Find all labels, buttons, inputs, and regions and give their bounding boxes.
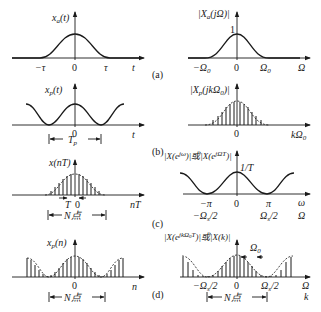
y-axis-label: |Xa(jΩ)| [198, 8, 230, 21]
y-axis-label: |X(ejkΩ0T)|或|X(k)| [164, 231, 230, 242]
x-axis-label: kΩ0 [291, 129, 307, 142]
tick-neg-half-fs: −Ωs/2 [193, 280, 218, 293]
fourier-transform-diagram: xa(t) −τ 0 τ t (a) |Xa(jΩ)| 1 −Ω0 0 Ω0 Ω… [0, 0, 321, 312]
tick-half-fs: Ωs/2 [261, 280, 279, 293]
y-axis-label: x(nT) [48, 157, 71, 169]
y-axis-label: xa(t) [51, 12, 70, 25]
tick-neg-tau: −τ [35, 62, 46, 73]
envelope-curve [182, 255, 293, 277]
tick-zero: 0 [234, 62, 239, 73]
x-axis-label-Omega: Ω [302, 280, 309, 291]
tick-zero: 0 [72, 62, 77, 73]
caption-b: (b) [152, 146, 164, 158]
caption-c: (c) [152, 218, 163, 230]
span-label: N点 [63, 210, 82, 221]
x-axis-label-omega: ω [298, 197, 305, 208]
gaussian-pulse-curve [12, 34, 140, 58]
tick-pi: π [266, 198, 272, 209]
tick-zero: 0 [234, 198, 239, 209]
panel-a-left-time-signal: xa(t) −τ 0 τ t [12, 12, 144, 73]
x-axis-label-k: k [304, 291, 309, 302]
tick-neg-half-fs: −Ωs/2 [193, 210, 218, 223]
span-label: N点 [63, 292, 82, 303]
tick-neg-omega0: −Ω0 [193, 62, 211, 75]
x-axis-label: n [132, 281, 137, 292]
tick-half-fs: Ωs/2 [260, 210, 278, 223]
y-axis-label: |X(ejω)|或|X(ejΩT)| [164, 150, 232, 161]
x-axis-label: t [132, 129, 135, 140]
x-axis-label: nT [130, 199, 142, 210]
tick-zero: 0 [234, 280, 239, 291]
panel-b-left-periodic-signal: xp(t) 0 t Tp [12, 84, 144, 147]
tick-zero: 0 [72, 280, 77, 291]
panel-d-right-dft-spectrum: |X(ejkΩ0T)|或|X(k)| Ω0 −Ωs/2 0 Ωs/2 Ω k N… [164, 231, 310, 303]
tick-zero: 0 [234, 128, 239, 139]
caption-d: (d) [152, 289, 164, 301]
panel-c-left-sampled-signal: x(nT) T 0 nT N点 [12, 157, 144, 221]
peak-label: 1 [230, 24, 235, 35]
tick-zero: 0 [75, 199, 80, 210]
span-label: N点 [223, 292, 242, 303]
tick-omega0: Ω0 [260, 62, 271, 75]
x-axis-label: t [132, 62, 135, 73]
caption-a: (a) [152, 69, 163, 81]
tick-neg-pi: −π [200, 198, 213, 209]
spectrum-curve [188, 34, 300, 58]
x-axis-label-Omega: Ω [298, 210, 305, 221]
y-axis-label: |Xp(jkΩ0)| [190, 84, 230, 97]
peak-label: 1/T [240, 162, 255, 173]
sample-period-label: T [65, 199, 72, 210]
panel-c-right-dtft-spectrum: |X(ejω)|或|X(ejΩT)| 1/T −π 0 π ω −Ωs/2 Ωs… [164, 150, 310, 223]
bin-spacing-label: Ω0 [250, 242, 261, 255]
panel-b-right-line-spectrum: |Xp(jkΩ0)| 0 kΩ0 [188, 84, 310, 142]
y-axis-label: xp(n) [46, 237, 67, 250]
x-axis-label: Ω [298, 62, 305, 73]
panel-a-right-spectrum: |Xa(jΩ)| 1 −Ω0 0 Ω0 Ω [188, 8, 310, 75]
tick-tau: τ [104, 62, 108, 73]
panel-d-left-periodic-sequence: xp(n) 0 n N点 [12, 237, 144, 303]
y-axis-label: xp(t) [44, 84, 63, 97]
